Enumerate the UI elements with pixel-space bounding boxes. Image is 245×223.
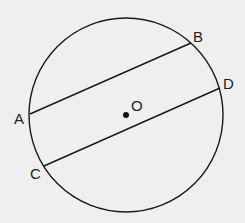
label-a: A: [14, 110, 24, 127]
chord-ab: [30, 43, 191, 114]
circle-chords-diagram: O A B C D: [0, 0, 245, 223]
center-point-o: [123, 112, 129, 118]
label-c: C: [30, 165, 41, 182]
label-o: O: [131, 97, 143, 114]
label-b: B: [193, 28, 203, 45]
label-d: D: [223, 75, 234, 92]
